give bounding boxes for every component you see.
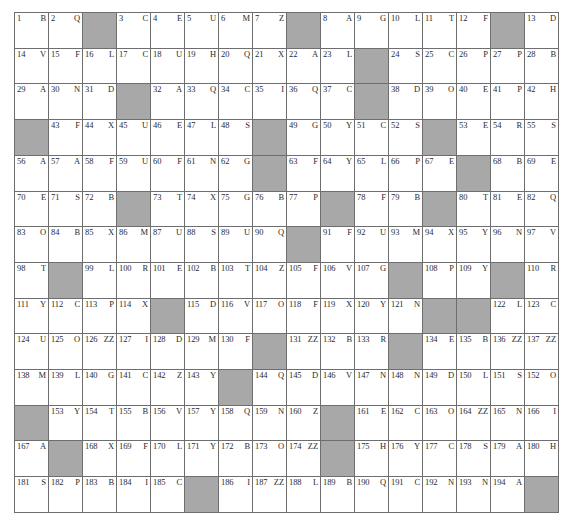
puzzle-cell[interactable]: 53E (457, 120, 491, 156)
puzzle-cell[interactable]: 148N (389, 370, 423, 406)
puzzle-cell[interactable]: 14V (15, 48, 49, 84)
puzzle-cell[interactable]: 151S (491, 370, 525, 406)
puzzle-cell[interactable]: 81E (491, 191, 525, 227)
puzzle-cell[interactable]: 162C (389, 405, 423, 441)
puzzle-cell[interactable]: 104Z (253, 262, 287, 298)
puzzle-cell[interactable]: 193N (457, 477, 491, 513)
puzzle-cell[interactable]: 93M (389, 227, 423, 263)
puzzle-cell[interactable]: 12F (457, 13, 491, 49)
puzzle-cell[interactable]: 167A (15, 441, 49, 477)
puzzle-cell[interactable]: 126ZZ (83, 334, 117, 370)
puzzle-cell[interactable]: 122L (491, 298, 525, 334)
puzzle-cell[interactable]: 11T (423, 13, 457, 49)
puzzle-cell[interactable]: 108P (423, 262, 457, 298)
puzzle-cell[interactable]: 3C (117, 13, 151, 49)
puzzle-cell[interactable]: 46E (151, 120, 185, 156)
puzzle-cell[interactable]: 8A (321, 13, 355, 49)
puzzle-cell[interactable]: 74X (185, 191, 219, 227)
puzzle-cell[interactable]: 188L (287, 477, 321, 513)
puzzle-cell[interactable]: 115D (185, 298, 219, 334)
puzzle-cell[interactable]: 15F (49, 48, 83, 84)
puzzle-cell[interactable]: 37C (321, 84, 355, 120)
puzzle-cell[interactable]: 9G (355, 13, 389, 49)
puzzle-cell[interactable]: 92U (355, 227, 389, 263)
puzzle-cell[interactable]: 127I (117, 334, 151, 370)
puzzle-cell[interactable]: 88S (185, 227, 219, 263)
puzzle-cell[interactable]: 164ZZ (457, 405, 491, 441)
puzzle-cell[interactable]: 31D (83, 84, 117, 120)
puzzle-cell[interactable]: 132B (321, 334, 355, 370)
puzzle-cell[interactable]: 33Q (185, 84, 219, 120)
puzzle-cell[interactable]: 181S (15, 477, 49, 513)
puzzle-cell[interactable]: 153Y (49, 405, 83, 441)
puzzle-cell[interactable]: 62G (219, 155, 253, 191)
puzzle-cell[interactable]: 96N (491, 227, 525, 263)
puzzle-cell[interactable]: 52S (389, 120, 423, 156)
puzzle-cell[interactable]: 99L (83, 262, 117, 298)
puzzle-cell[interactable]: 90Q (253, 227, 287, 263)
puzzle-cell[interactable]: 72B (83, 191, 117, 227)
puzzle-cell[interactable]: 42H (525, 84, 559, 120)
puzzle-cell[interactable]: 114X (117, 298, 151, 334)
puzzle-cell[interactable]: 57A (49, 155, 83, 191)
puzzle-cell[interactable]: 107G (355, 262, 389, 298)
puzzle-cell[interactable]: 5U (185, 13, 219, 49)
puzzle-cell[interactable]: 149D (423, 370, 457, 406)
puzzle-cell[interactable]: 75G (219, 191, 253, 227)
puzzle-cell[interactable]: 169F (117, 441, 151, 477)
puzzle-cell[interactable]: 34C (219, 84, 253, 120)
puzzle-cell[interactable]: 97V (525, 227, 559, 263)
puzzle-cell[interactable]: 103T (219, 262, 253, 298)
puzzle-cell[interactable]: 118F (287, 298, 321, 334)
puzzle-cell[interactable]: 186I (219, 477, 253, 513)
puzzle-cell[interactable]: 140G (83, 370, 117, 406)
puzzle-cell[interactable]: 138M (15, 370, 49, 406)
puzzle-cell[interactable]: 51C (355, 120, 389, 156)
puzzle-cell[interactable]: 2Q (49, 13, 83, 49)
puzzle-cell[interactable]: 154T (83, 405, 117, 441)
puzzle-cell[interactable]: 94X (423, 227, 457, 263)
puzzle-cell[interactable]: 67E (423, 155, 457, 191)
puzzle-cell[interactable]: 76B (253, 191, 287, 227)
puzzle-cell[interactable]: 136ZZ (491, 334, 525, 370)
puzzle-cell[interactable]: 190Q (355, 477, 389, 513)
puzzle-cell[interactable]: 182P (49, 477, 83, 513)
puzzle-cell[interactable]: 187ZZ (253, 477, 287, 513)
puzzle-cell[interactable]: 19H (185, 48, 219, 84)
puzzle-cell[interactable]: 24S (389, 48, 423, 84)
puzzle-cell[interactable]: 105F (287, 262, 321, 298)
puzzle-cell[interactable]: 141C (117, 370, 151, 406)
puzzle-cell[interactable]: 21X (253, 48, 287, 84)
puzzle-cell[interactable]: 61N (185, 155, 219, 191)
puzzle-cell[interactable]: 145D (287, 370, 321, 406)
puzzle-cell[interactable]: 139L (49, 370, 83, 406)
puzzle-cell[interactable]: 82Q (525, 191, 559, 227)
puzzle-cell[interactable]: 13D (525, 13, 559, 49)
puzzle-cell[interactable]: 113P (83, 298, 117, 334)
puzzle-cell[interactable]: 152O (525, 370, 559, 406)
puzzle-cell[interactable]: 110R (525, 262, 559, 298)
puzzle-cell[interactable]: 91F (321, 227, 355, 263)
puzzle-cell[interactable]: 144Q (253, 370, 287, 406)
puzzle-cell[interactable]: 171Y (185, 441, 219, 477)
puzzle-cell[interactable]: 137ZZ (525, 334, 559, 370)
puzzle-cell[interactable]: 29A (15, 84, 49, 120)
puzzle-cell[interactable]: 191C (389, 477, 423, 513)
puzzle-cell[interactable]: 165N (491, 405, 525, 441)
puzzle-cell[interactable]: 192N (423, 477, 457, 513)
puzzle-cell[interactable]: 185C (151, 477, 185, 513)
puzzle-cell[interactable]: 63F (287, 155, 321, 191)
puzzle-cell[interactable]: 159N (253, 405, 287, 441)
puzzle-cell[interactable]: 150L (457, 370, 491, 406)
puzzle-cell[interactable]: 38D (389, 84, 423, 120)
puzzle-cell[interactable]: 135B (457, 334, 491, 370)
puzzle-cell[interactable]: 158Q (219, 405, 253, 441)
puzzle-cell[interactable]: 41P (491, 84, 525, 120)
puzzle-cell[interactable]: 112C (49, 298, 83, 334)
puzzle-cell[interactable]: 40E (457, 84, 491, 120)
puzzle-cell[interactable]: 109Y (457, 262, 491, 298)
puzzle-cell[interactable]: 78F (355, 191, 389, 227)
puzzle-cell[interactable]: 101E (151, 262, 185, 298)
puzzle-cell[interactable]: 146V (321, 370, 355, 406)
puzzle-cell[interactable]: 119X (321, 298, 355, 334)
